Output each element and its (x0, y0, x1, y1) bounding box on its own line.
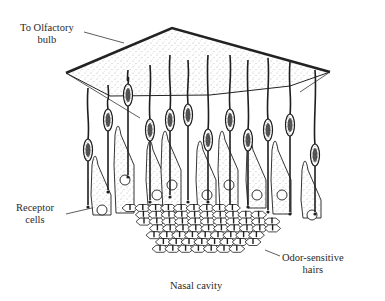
receptor-knob (86, 205, 89, 208)
receptor-axon (187, 60, 188, 200)
receptor-axon (314, 70, 315, 212)
supporting-cell (218, 131, 238, 210)
supporting-cell (301, 161, 321, 218)
receptor-cell-nucleus (186, 108, 191, 122)
receptor-knob (246, 205, 249, 208)
supporting-cell-nucleus (202, 190, 212, 200)
supporting-cell (196, 141, 216, 215)
receptor-cell-nucleus (266, 123, 271, 137)
receptor-knob (148, 200, 151, 203)
receptor-cell-nucleus (168, 113, 173, 127)
label-odor-hairs: Odor-sensitive hairs (282, 252, 344, 276)
supporting-cell-nucleus (277, 190, 287, 200)
supporting-cell (161, 131, 181, 212)
receptor-knob (288, 212, 291, 215)
receptor-knob (186, 200, 189, 203)
label-nasal-cavity: Nasal cavity (170, 280, 222, 292)
leader-odor (265, 250, 280, 256)
receptor-knob (206, 200, 209, 203)
receptor-cell-nucleus (228, 113, 233, 127)
supporting-cell (271, 141, 291, 214)
leader-olfactory (84, 32, 124, 43)
label-receptor-line1: Receptor (16, 202, 54, 214)
receptor-knob (313, 212, 316, 215)
supporting-cell-nucleus (224, 180, 234, 190)
receptor-cell-nucleus (86, 143, 91, 157)
supporting-cell-nucleus (152, 190, 162, 200)
label-olfactory-line2: bulb (20, 34, 74, 46)
receptor-cell-nucleus (288, 118, 293, 132)
receptor-cell-nucleus (148, 123, 153, 137)
receptor-axon (289, 62, 290, 212)
olfactory-diagram: To Olfactory bulb Receptor cells Odor-se… (0, 0, 385, 301)
receptor-cell-nucleus (206, 133, 211, 147)
supporting-cell-nucleus (167, 180, 177, 190)
leader-receptor (66, 207, 96, 214)
supporting-cell-nucleus (252, 190, 262, 200)
receptor-knob (106, 190, 109, 193)
receptor-cell-nucleus (246, 133, 251, 147)
receptor-knob (266, 210, 269, 213)
receptor-cell-nucleus (313, 148, 318, 162)
label-receptor-line2: cells (16, 214, 54, 226)
receptor-cell-nucleus (106, 113, 111, 127)
receptor-knob (168, 195, 171, 198)
label-olfactory-line1: To Olfactory (20, 22, 74, 34)
receptor-knob (126, 175, 129, 178)
label-receptor-cells: Receptor cells (16, 202, 54, 226)
label-odor-line2: hairs (282, 264, 344, 276)
label-olfactory-bulb: To Olfactory bulb (20, 22, 74, 46)
supporting-cell-nucleus (97, 205, 107, 215)
supporting-cell (114, 126, 134, 213)
receptor-cell-nucleus (126, 88, 131, 102)
receptor-axon (107, 85, 108, 190)
label-odor-line1: Odor-sensitive (282, 252, 344, 264)
